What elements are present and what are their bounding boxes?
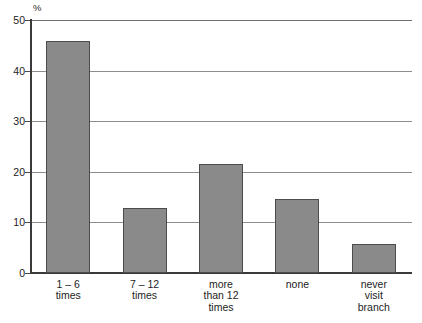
bar xyxy=(46,41,90,273)
y-tick-label-30: 30 xyxy=(1,116,25,126)
x-tick-label: 7 – 12 times xyxy=(106,279,182,302)
y-tick-label-50: 50 xyxy=(1,15,25,25)
bars-group xyxy=(30,20,412,273)
y-tick-label-20: 20 xyxy=(1,167,25,177)
y-tick-label-40: 40 xyxy=(1,66,25,76)
x-tick-label: 1 – 6 times xyxy=(30,279,106,302)
bar xyxy=(199,164,243,273)
y-tick-label-10: 10 xyxy=(1,217,25,227)
bar-chart: % 01020304050 1 – 6 times7 – 12 timesmor… xyxy=(0,0,422,323)
bar xyxy=(275,199,319,273)
bar xyxy=(123,208,167,273)
x-tick-label: never visit branch xyxy=(336,279,412,313)
x-tick-label: more than 12 times xyxy=(183,279,259,313)
y-axis-unit-label: % xyxy=(33,2,41,13)
x-tick-label: none xyxy=(259,279,335,290)
y-tick-label-0: 0 xyxy=(1,268,25,278)
bar xyxy=(352,244,396,273)
